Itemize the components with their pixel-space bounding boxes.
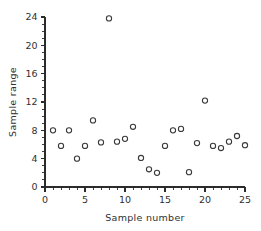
x-tick-label: 10 xyxy=(119,194,131,205)
data-point xyxy=(90,118,95,123)
x-axis-title: Sample number xyxy=(105,212,185,223)
data-point xyxy=(122,136,127,141)
data-point xyxy=(170,128,175,133)
data-point xyxy=(186,170,191,175)
data-point xyxy=(210,143,215,148)
data-point xyxy=(178,126,183,131)
data-point xyxy=(130,124,135,129)
data-point xyxy=(234,133,239,138)
data-point xyxy=(226,139,231,144)
y-tick-label: 4 xyxy=(31,153,37,164)
y-tick-label: 24 xyxy=(25,11,37,22)
x-tick-label: 0 xyxy=(42,194,48,205)
x-tick-label: 5 xyxy=(82,194,88,205)
data-point xyxy=(146,167,151,172)
data-point xyxy=(114,139,119,144)
data-point xyxy=(58,143,63,148)
data-point xyxy=(202,98,207,103)
data-point xyxy=(82,143,87,148)
data-point xyxy=(194,140,199,145)
x-tick-label: 20 xyxy=(199,194,211,205)
data-point xyxy=(242,143,247,148)
y-axis-title: Sample range xyxy=(7,67,18,137)
data-point xyxy=(154,170,159,175)
data-point xyxy=(218,145,223,150)
x-tick-label: 15 xyxy=(159,194,171,205)
data-point xyxy=(162,143,167,148)
data-point xyxy=(74,156,79,161)
x-tick-label: 25 xyxy=(239,194,251,205)
data-point xyxy=(106,16,111,21)
plot-area: 048121620240510152025Sample numberSample… xyxy=(0,0,261,231)
y-tick-label: 12 xyxy=(25,96,37,107)
data-point xyxy=(138,155,143,160)
data-point xyxy=(66,128,71,133)
y-tick-label: 0 xyxy=(31,181,37,192)
data-point xyxy=(50,128,55,133)
y-tick-label: 8 xyxy=(31,125,37,136)
y-tick-label: 16 xyxy=(25,68,37,79)
y-tick-label: 20 xyxy=(25,40,37,51)
data-point xyxy=(98,140,103,145)
scatter-chart: 048121620240510152025Sample numberSample… xyxy=(0,0,261,231)
